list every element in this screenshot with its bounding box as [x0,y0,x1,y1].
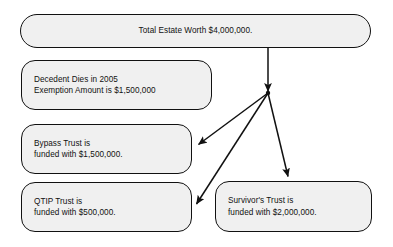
total-estate-line-1: Total Estate Worth $4,000,000. [139,25,253,36]
bypass-trust-node: Bypass Trust is funded with $1,500,000. [21,124,192,174]
arrow-junction-point [266,91,270,95]
total-estate-node: Total Estate Worth $4,000,000. [20,14,371,48]
bypass-trust-line-2: funded with $1,500,000. [34,149,123,160]
survivors-trust-line-1: Survivor's Trust is [228,195,293,206]
qtip-trust-line-2: funded with $500,000. [34,207,116,218]
edge-junction-to-survivors-trust [268,93,288,177]
survivors-trust-node: Survivor's Trust is funded with $2,000,0… [215,181,372,232]
survivors-trust-line-2: funded with $2,000,000. [228,207,317,218]
estate-flow-diagram: Total Estate Worth $4,000,000. Decedent … [0,0,393,247]
decedent-node: Decedent Dies in 2005 Exemption Amount i… [21,60,212,110]
qtip-trust-line-1: QTIP Trust is [34,196,82,207]
bypass-trust-line-1: Bypass Trust is [34,138,90,149]
qtip-trust-node: QTIP Trust is funded with $500,000. [21,182,192,232]
decedent-line-1: Decedent Dies in 2005 [34,74,118,85]
decedent-line-2: Exemption Amount is $1,500,000 [34,85,156,96]
